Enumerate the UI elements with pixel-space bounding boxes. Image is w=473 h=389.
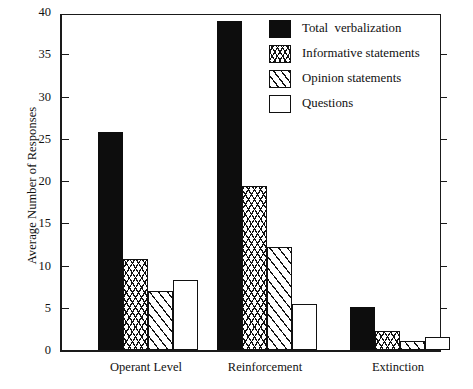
y-tick-label: 5 (45, 300, 51, 315)
bar (98, 132, 123, 350)
bar (350, 307, 375, 350)
y-tick-label: 25 (39, 131, 52, 146)
y-tick-mark (62, 223, 69, 224)
y-tick-mark (62, 181, 69, 182)
y-tick-mark (62, 308, 69, 309)
x-axis-label: Reinforcement (228, 360, 302, 375)
legend-swatch-cross (269, 45, 291, 63)
y-tick-label: 20 (39, 174, 52, 189)
legend-swatch-solid (269, 20, 291, 38)
bar (425, 337, 450, 350)
bar (148, 291, 173, 350)
bar (242, 186, 267, 350)
y-tick-mark (62, 266, 69, 267)
legend-label: Total verbalization (302, 21, 401, 36)
legend-item: Questions (269, 91, 459, 116)
bar (400, 341, 425, 350)
y-tick-label: 30 (39, 89, 52, 104)
y-axis-title: Average Number of Responses (25, 36, 40, 336)
legend-label: Opinion statements (302, 71, 401, 86)
legend: Total verbalizationInformative statement… (269, 16, 459, 116)
legend-item: Informative statements (269, 41, 459, 66)
legend-item: Opinion statements (269, 66, 459, 91)
y-tick-label: 10 (39, 258, 52, 273)
bar (375, 331, 400, 350)
x-axis-label: Operant Level (110, 360, 182, 375)
y-tick-mark (62, 139, 69, 140)
legend-item: Total verbalization (269, 16, 459, 41)
y-tick-label: 0 (45, 343, 51, 358)
bar (267, 247, 292, 350)
y-tick-label: 40 (39, 5, 52, 20)
legend-swatch-open (269, 95, 291, 113)
y-tick-mark (62, 54, 69, 55)
bar-group (98, 15, 198, 350)
legend-label: Informative statements (302, 46, 420, 61)
y-tick-label: 15 (39, 216, 52, 231)
bar (123, 259, 148, 350)
bar (292, 304, 317, 350)
x-axis-label: Extinction (372, 360, 424, 375)
y-tick-mark (62, 97, 69, 98)
legend-swatch-diag (269, 70, 291, 88)
legend-label: Questions (302, 96, 353, 111)
bar-chart-figure: Average Number of Responses 051015202530… (0, 0, 473, 389)
bar (173, 280, 198, 350)
y-tick-label: 35 (39, 47, 52, 62)
bar (217, 21, 242, 350)
